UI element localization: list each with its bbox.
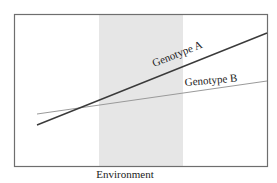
- genotype-b-label: Genotype B: [184, 71, 238, 88]
- x-axis-label: Environment: [0, 168, 250, 180]
- reaction-norm-chart: Genotype A Genotype B: [0, 0, 277, 183]
- environment-band: [99, 14, 183, 166]
